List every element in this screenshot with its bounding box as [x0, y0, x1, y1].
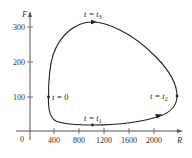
x-axis: R 0 400 800 1200 1600 2000 [16, 128, 183, 145]
origin-label: 0 [20, 135, 24, 144]
point-t3 [91, 21, 94, 24]
point-t0 [47, 96, 50, 99]
label-t2: t = t2 [150, 91, 168, 102]
y-axis: F 100 200 300 [13, 9, 33, 140]
trajectory-curve [48, 22, 177, 125]
y-tick-200: 200 [13, 58, 25, 67]
x-tick-1200: 1200 [96, 136, 112, 145]
y-tick-100: 100 [13, 93, 25, 102]
x-tick-400: 400 [48, 136, 60, 145]
x-axis-arrow-icon [177, 129, 183, 133]
y-axis-label: F [21, 9, 28, 19]
y-tick-300: 300 [13, 23, 25, 32]
x-tick-800: 800 [73, 136, 85, 145]
phase-plot: F 100 200 300 R 0 400 800 1200 1600 2000… [0, 0, 192, 158]
x-tick-2000: 2000 [146, 136, 162, 145]
x-tick-1600: 1600 [121, 136, 137, 145]
point-t2 [176, 95, 179, 98]
x-axis-label: R [176, 135, 183, 145]
point-t1 [91, 124, 94, 127]
label-t3: t = t3 [84, 9, 102, 20]
y-axis-arrow-icon [28, 11, 32, 17]
label-t1: t = t1 [84, 113, 102, 124]
label-t0: t = 0 [52, 92, 69, 102]
